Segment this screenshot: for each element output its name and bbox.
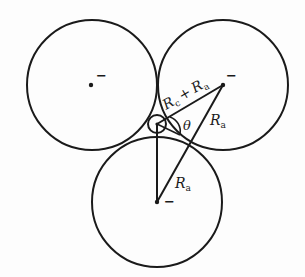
left-center-dot: [89, 83, 93, 87]
ionic-packing-diagram: Rc+Ra θ Ra Ra − − −: [0, 0, 305, 277]
charge-bottom: −: [164, 194, 175, 209]
charge-right: −: [226, 68, 237, 83]
diagram-svg: Rc+Ra θ Ra Ra − − −: [0, 0, 305, 277]
label-ra-right: Ra: [209, 112, 227, 130]
label-rc-plus-ra: Rc+Ra: [159, 74, 212, 115]
charge-left: −: [96, 68, 107, 83]
label-theta: θ: [183, 118, 191, 133]
label-ra-bottom: Ra: [174, 175, 192, 193]
